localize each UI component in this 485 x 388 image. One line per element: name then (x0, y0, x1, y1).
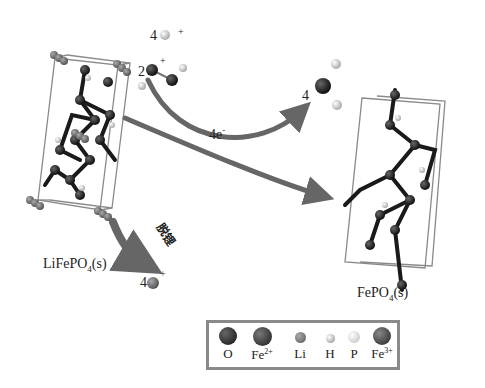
legend-label: Fe (251, 347, 264, 362)
hydrogen-atom-icon (326, 334, 335, 343)
legend-item-h: H (321, 327, 339, 362)
reaction-diagram: 4 + 2 + 4 4e- 脱锂 LiFePO4(s) 4 + FePO4(s)… (0, 0, 485, 388)
li-ion-charge: + (160, 268, 166, 279)
legend-label: O (223, 346, 232, 361)
h-ion-charge: + (178, 26, 184, 37)
legend-item-li: Li (289, 327, 311, 362)
fepo4-formula: FePO (357, 285, 389, 300)
h2o2-molecule (138, 64, 187, 90)
legend-sup: 2+ (264, 347, 273, 356)
electron-text: 4e (209, 127, 222, 142)
lifepo4-crystal (26, 51, 131, 221)
lithium-ion-atom (147, 277, 159, 289)
lifepo4-state: (s) (92, 256, 107, 271)
legend-label: Li (294, 346, 306, 361)
lithium-atom-icon (295, 332, 306, 343)
fepo4-crystal (345, 90, 445, 290)
legend-item-fe2: Fe2+ (245, 327, 279, 363)
lifepo4-label: LiFePO4(s) (43, 256, 107, 274)
electron-label: 4e- (209, 125, 225, 143)
legend-label: Fe (371, 346, 384, 361)
lifepo4-formula: LiFePO (43, 256, 87, 271)
hydrogen-ion-atom (160, 30, 170, 40)
water-molecule (315, 59, 342, 110)
h-ion-coefficient: 4 (150, 28, 157, 44)
legend-label: P (350, 346, 357, 361)
h2o2-coefficient: 2 (138, 64, 145, 80)
legend-item-o: O (215, 327, 241, 362)
fepo4-label: FePO4(s) (357, 285, 408, 303)
li-ion-coefficient: 4 (140, 275, 147, 291)
iron3-atom-icon (373, 327, 391, 345)
h2o2-charge: + (160, 55, 166, 66)
reaction-arrows (113, 80, 320, 262)
iron2-atom-icon (253, 327, 272, 346)
legend-sup: 3+ (384, 346, 393, 355)
atom-legend: O Fe2+ Li H P Fe3+ (206, 320, 400, 370)
electron-charge: - (222, 125, 225, 135)
fepo4-state: (s) (393, 285, 408, 300)
legend-item-fe3: Fe3+ (367, 327, 397, 362)
phosphorus-atom-icon (348, 331, 360, 343)
legend-item-p: P (345, 327, 363, 362)
oxygen-atom-icon (219, 327, 237, 345)
water-coefficient: 4 (302, 88, 309, 104)
legend-label: H (325, 346, 334, 361)
